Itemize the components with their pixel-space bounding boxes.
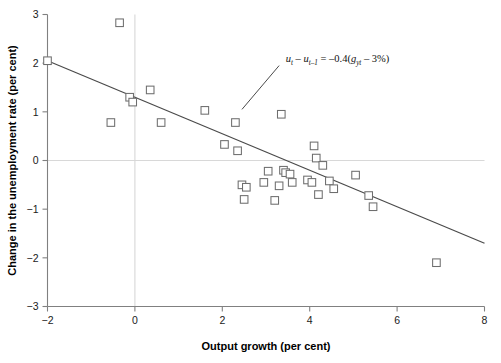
x-axis-title: Output growth (per cent) xyxy=(202,340,331,352)
eqn-coef: –0.4( xyxy=(328,53,351,65)
data-point-marker xyxy=(308,179,316,187)
data-point-marker xyxy=(352,171,360,179)
y-tick-label: 2 xyxy=(33,57,39,69)
data-point-marker xyxy=(330,185,338,193)
y-tick-label: −3 xyxy=(27,300,39,312)
x-tick-label: 2 xyxy=(219,314,225,326)
data-point-marker xyxy=(264,167,272,175)
data-point-marker xyxy=(288,179,296,187)
x-tick-label: −2 xyxy=(42,314,54,326)
data-point-marker xyxy=(275,182,283,190)
data-point-marker xyxy=(260,179,268,187)
regression-line xyxy=(48,61,485,244)
data-point-marker xyxy=(129,98,137,106)
axis-ticks-group xyxy=(43,15,485,312)
x-tick-label: 0 xyxy=(132,314,138,326)
data-point-marker xyxy=(319,162,327,170)
x-tick-label: 4 xyxy=(307,314,313,326)
data-point-marker xyxy=(286,170,294,178)
annotation-leader-line xyxy=(242,66,279,110)
x-tick-label: 8 xyxy=(482,314,488,326)
data-point-marker xyxy=(146,86,154,94)
data-point-marker xyxy=(107,119,115,127)
regression-line-group xyxy=(48,61,485,244)
data-point-marker xyxy=(365,192,373,200)
axis-tick-labels-group: 3210−1−2−3−202468 xyxy=(27,8,488,325)
data-point-marker xyxy=(240,196,248,204)
eqn-tail: – 3%) xyxy=(363,53,390,65)
y-tick-label: −1 xyxy=(27,203,39,215)
y-tick-label: −2 xyxy=(27,252,39,264)
annotation-leader xyxy=(242,66,279,110)
data-point-marker xyxy=(310,142,318,150)
data-point-marker xyxy=(157,119,165,127)
data-point-marker xyxy=(116,19,124,27)
y-tick-label: 3 xyxy=(33,8,39,20)
data-point-marker xyxy=(234,147,242,155)
data-point-marker xyxy=(433,259,441,267)
regression-equation-annotation: ut – ut–1 = –0.4(gyt – 3%) xyxy=(286,53,390,67)
data-point-marker xyxy=(277,110,285,118)
y-axis-title: Change in the unemployment rate (per cen… xyxy=(6,45,18,276)
data-point-marker xyxy=(312,154,320,162)
y-tick-label: 0 xyxy=(33,154,39,166)
data-point-marker xyxy=(221,141,229,149)
data-point-marker xyxy=(271,197,279,205)
gridlines-group xyxy=(48,15,485,307)
data-point-marker xyxy=(243,183,251,191)
data-point-marker xyxy=(315,191,323,199)
scatter-chart: 3210−1−2−3−202468 Output growth (per cen… xyxy=(0,0,501,363)
data-point-marker xyxy=(232,119,240,127)
data-point-marker xyxy=(369,203,377,211)
data-point-marker xyxy=(44,57,52,65)
chart-canvas: 3210−1−2−3−202468 Output growth (per cen… xyxy=(0,0,501,363)
y-tick-label: 1 xyxy=(33,106,39,118)
data-point-marker xyxy=(201,107,209,115)
data-point-marker xyxy=(326,177,334,185)
eqn-u2-sub: t–1 xyxy=(309,59,318,67)
x-tick-label: 6 xyxy=(394,314,400,326)
